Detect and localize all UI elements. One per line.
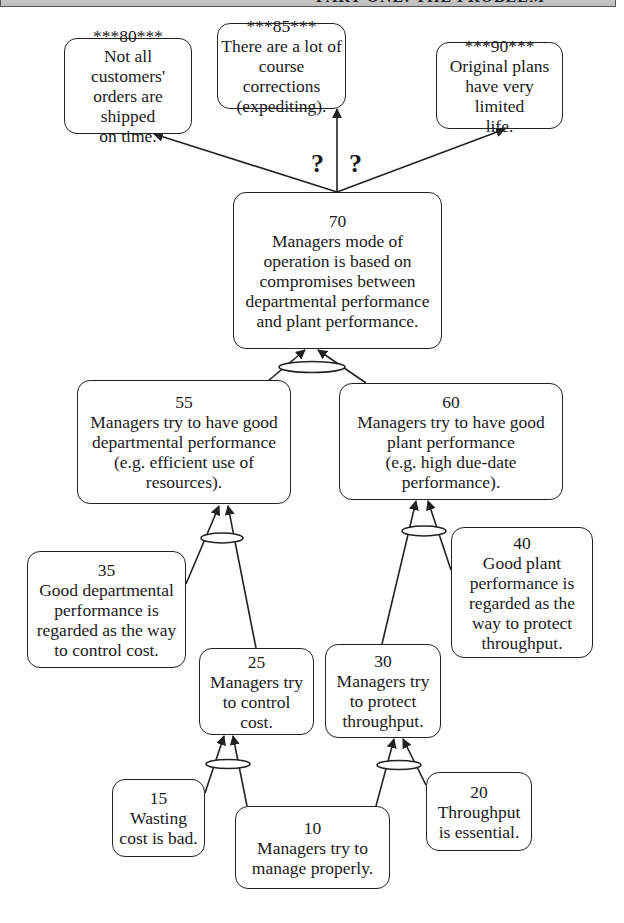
entity-number: 70 [237,211,438,231]
arrow-70-to-90 [337,129,505,192]
entity-text: Managers try to control cost. [203,672,310,732]
arrow-25-to-55 [228,506,256,648]
entity-box-85: ***85*** There are a lot of course corre… [217,23,346,109]
entity-box-20: 20 Throughput is essential. [426,772,532,851]
entity-number: 15 [116,788,201,808]
entity-text: Good plant performance is regarded as th… [455,553,589,653]
entity-text: Managers try to have good plant performa… [343,412,559,492]
entity-number: 55 [81,392,287,412]
entity-box-35: 35 Good departmental performance is rega… [27,551,186,668]
arrow-35-to-55 [186,506,219,584]
entity-box-10: 10 Managers try to manage properly. [235,806,390,889]
and-connector-25 [206,760,250,769]
entity-text: Original plans have very limited life. [440,56,559,136]
entity-box-40: 40 Good plant performance is regarded as… [451,527,593,658]
entity-box-70: 70 Managers mode of operation is based o… [233,192,442,349]
and-connector-55 [201,533,243,543]
entity-box-55: 55 Managers try to have good departmenta… [77,380,291,504]
entity-text: Managers try to have good departmental p… [81,412,287,492]
entity-text: Good departmental performance is regarde… [31,580,182,660]
entity-text: Not all customers' orders are shipped on… [68,46,188,146]
entity-number: 20 [430,782,528,802]
entity-box-15: 15 Wasting cost is bad. [112,779,205,857]
arrow-10-to-30 [376,739,394,806]
entity-box-60: 60 Managers try to have good plant perfo… [339,383,563,500]
entity-box-30: 30 Managers try to protect throughput. [325,644,441,738]
and-connector-30 [377,761,421,770]
entity-number: 40 [455,533,589,553]
entity-number: 25 [203,652,310,672]
entity-text: Wasting cost is bad. [116,808,201,848]
entity-text: Managers try to manage properly. [239,838,386,878]
entity-text: Managers mode of operation is based on c… [237,231,438,331]
entity-number: 35 [31,560,182,580]
entity-number: ***85*** [221,16,342,36]
entity-number: ***90*** [440,36,559,56]
entity-text: Managers try to protect throughput. [329,671,437,731]
entity-number: 30 [329,651,437,671]
and-connector-60 [402,526,446,536]
entity-text: There are a lot of course corrections (e… [221,36,342,116]
entity-box-80: ***80*** Not all customers' orders are s… [64,38,192,134]
entity-box-25: 25 Managers try to control cost. [199,648,314,735]
and-connector-70 [279,362,345,373]
entity-number: 60 [343,392,559,412]
arrow-10-to-25 [233,736,247,806]
arrow-30-to-60 [382,501,416,644]
uncertainty-mark-left: ? [311,149,324,179]
entity-box-90: ***90*** Original plans have very limite… [436,42,563,129]
entity-text: Throughput is essential. [430,802,528,842]
entity-number: 10 [239,818,386,838]
uncertainty-mark-right: ? [349,149,362,179]
entity-number: ***80*** [68,26,188,46]
